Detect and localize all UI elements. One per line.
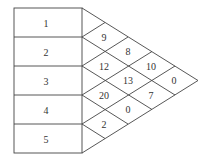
cell-value: 0 [126, 104, 131, 115]
input-label: 2 [44, 47, 49, 58]
cell-value: 2 [102, 119, 107, 130]
cell-value: 9 [102, 32, 107, 43]
cell-value: 10 [146, 61, 156, 72]
cell-value: 20 [99, 90, 109, 101]
input-label: 4 [44, 105, 49, 116]
input-label: 5 [44, 134, 49, 145]
cell-value: 0 [172, 75, 177, 86]
cell-value: 13 [123, 75, 133, 86]
cell-value: 8 [126, 46, 131, 57]
cell-value: 7 [149, 90, 154, 101]
cell-value: 12 [99, 61, 109, 72]
lattice-line [82, 66, 152, 110]
input-label: 3 [44, 76, 49, 87]
lattice-line [82, 52, 152, 96]
lattice-diagram: 1 2 3 4 5 9 12 20 2 8 13 0 10 7 0 [0, 0, 210, 161]
input-label: 1 [44, 18, 49, 29]
